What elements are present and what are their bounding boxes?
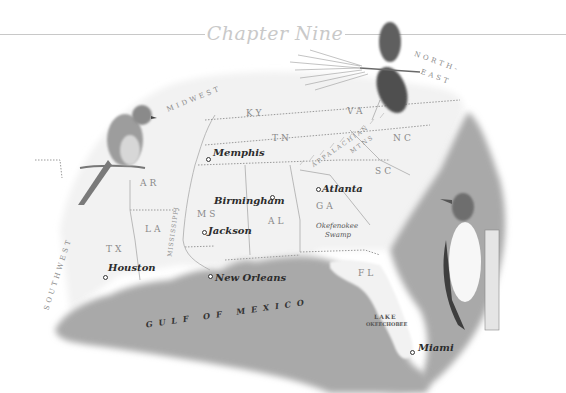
label-state-ar: AR: [140, 178, 159, 188]
city-dot-atlanta: [316, 187, 321, 192]
label-state-al: AL: [268, 216, 286, 226]
label-state-sc: SC: [375, 166, 394, 176]
label-city-miami: Miami: [418, 342, 454, 353]
label-state-ga: GA: [316, 201, 336, 211]
label-okefenokee-2: Swamp: [325, 231, 351, 239]
city-dot-jackson: [202, 230, 207, 235]
label-state-nc: NC: [393, 133, 414, 143]
label-lake-1: LAKE: [374, 313, 397, 320]
label-state-la: LA: [145, 224, 163, 234]
label-city-new-orleans: New Orleans: [215, 272, 286, 283]
label-state-va: VA: [347, 106, 365, 116]
label-okefenokee-1: Okefenokee: [316, 222, 358, 230]
city-dot-miami: [410, 350, 415, 355]
label-state-ky: KY: [246, 108, 264, 118]
label-city-atlanta: Atlanta: [322, 183, 363, 194]
city-dot-memphis: [206, 157, 211, 162]
label-state-ms: MS: [197, 209, 218, 219]
label-state-tx: TX: [106, 244, 124, 254]
label-state-fl: FL: [358, 268, 376, 278]
city-dot-new-orleans: [208, 274, 213, 279]
city-dot-houston: [103, 275, 108, 280]
label-lake-2: OKEECHOBEE: [366, 321, 407, 327]
label-state-tn: TN: [272, 133, 292, 143]
label-city-memphis: Memphis: [213, 147, 265, 158]
label-city-houston: Houston: [108, 262, 156, 273]
label-city-birmingham: Birmingham: [214, 195, 285, 206]
label-city-jackson: Jackson: [208, 225, 252, 236]
